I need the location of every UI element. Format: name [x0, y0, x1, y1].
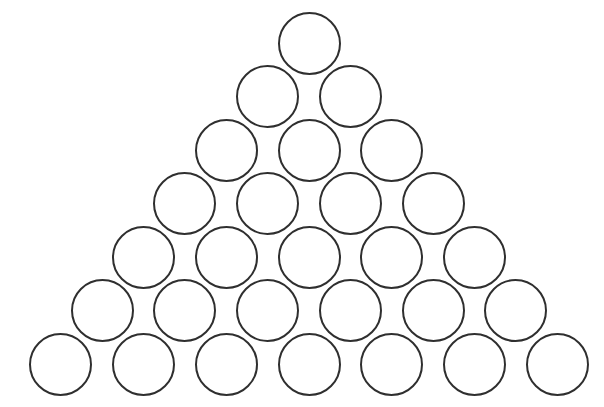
circle-row-7-item-6 [443, 333, 506, 396]
circle-row-3-item-3 [360, 119, 423, 182]
circle-row-6-item-6 [484, 279, 547, 342]
circle-row-4-item-2 [236, 172, 299, 235]
circle-row-7-item-7 [526, 333, 589, 396]
circle-row-7-item-2 [112, 333, 175, 396]
circle-row-7-item-4 [278, 333, 341, 396]
circle-row-4-item-1 [153, 172, 216, 235]
circle-row-6-item-3 [236, 279, 299, 342]
circle-row-1-item-1 [278, 12, 341, 75]
circle-row-6-item-5 [402, 279, 465, 342]
circle-row-5-item-1 [112, 226, 175, 289]
circle-row-2-item-2 [319, 65, 382, 128]
circle-row-5-item-5 [443, 226, 506, 289]
circle-row-6-item-2 [153, 279, 216, 342]
circle-row-4-item-3 [319, 172, 382, 235]
circle-row-5-item-2 [195, 226, 258, 289]
circle-row-5-item-3 [278, 226, 341, 289]
circle-row-3-item-1 [195, 119, 258, 182]
circle-row-6-item-4 [319, 279, 382, 342]
circle-row-7-item-5 [360, 333, 423, 396]
circle-row-7-item-3 [195, 333, 258, 396]
circle-row-7-item-1 [29, 333, 92, 396]
circle-row-5-item-4 [360, 226, 423, 289]
circle-row-6-item-1 [71, 279, 134, 342]
circle-triangle-diagram [0, 0, 604, 407]
circle-row-4-item-4 [402, 172, 465, 235]
circle-row-3-item-2 [278, 119, 341, 182]
circle-row-2-item-1 [236, 65, 299, 128]
